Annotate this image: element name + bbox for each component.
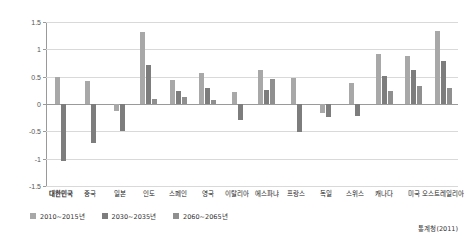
category-label: 일본	[114, 188, 126, 198]
bar	[264, 90, 269, 104]
bar	[211, 100, 216, 104]
category-label: 오스트레일리아	[422, 188, 464, 198]
category-axis-labels: 대한민국중국일본인도스페인영국이탈리아에스파냐프랑스독일스위스캐나다미국오스트레…	[46, 188, 458, 202]
y-tick-label: 0	[37, 101, 41, 108]
category-label: 스위스	[346, 188, 364, 198]
y-tick-label: 1.5	[31, 19, 41, 26]
legend-swatch-icon	[102, 213, 108, 219]
bar	[405, 56, 410, 104]
bar	[85, 81, 90, 104]
y-tick-mark	[43, 186, 46, 187]
y-tick-label: -0.5	[29, 128, 41, 135]
bar-group	[311, 22, 340, 186]
bar	[291, 78, 296, 104]
bar-group	[105, 22, 134, 186]
bar	[417, 86, 422, 104]
legend-item[interactable]: 2060~2065년	[173, 211, 228, 221]
bar	[146, 65, 151, 104]
bar	[238, 104, 243, 120]
category-label: 이탈리아	[225, 188, 249, 198]
bar-group	[46, 22, 75, 186]
category-label: 독일	[320, 188, 332, 198]
bar	[140, 32, 145, 104]
y-tick-label: 1	[37, 46, 41, 53]
category-label: 중국	[84, 188, 96, 198]
bar	[435, 31, 440, 104]
y-tick-label: -1	[35, 155, 41, 162]
bar	[232, 92, 237, 104]
source-note: 통계청(2011)	[418, 223, 458, 233]
bar	[91, 104, 96, 143]
bar	[349, 83, 354, 104]
legend-label: 2010~2015년	[40, 211, 85, 221]
bar	[411, 70, 416, 104]
bar	[441, 61, 446, 104]
bar	[320, 104, 325, 113]
plot-area: 1.510.50-0.5-1-1.5	[46, 22, 458, 186]
bar-group	[370, 22, 399, 186]
bar	[382, 76, 387, 104]
bar	[376, 54, 381, 104]
bar	[447, 88, 452, 104]
bar	[297, 104, 302, 132]
bar-group	[340, 22, 369, 186]
y-tick-label: -1.5	[29, 183, 41, 190]
chart-legend: 2010~2015년2030~2035년2060~2065년	[30, 211, 228, 221]
bar	[205, 88, 210, 104]
bar-group	[399, 22, 428, 186]
bar-group	[429, 22, 458, 186]
bar	[55, 77, 60, 104]
category-label: 에스파냐	[255, 188, 279, 198]
category-label: 캐나다	[375, 188, 393, 198]
bar-series-container	[46, 22, 458, 186]
bar	[120, 104, 125, 131]
category-label: 스페인	[169, 188, 187, 198]
bar-group	[252, 22, 281, 186]
y-tick-label: 0.5	[31, 73, 41, 80]
bar	[326, 104, 331, 117]
legend-item[interactable]: 2030~2035년	[102, 211, 157, 221]
category-label: 대한민국	[49, 188, 73, 198]
legend-label: 2060~2065년	[183, 211, 228, 221]
bar	[61, 104, 66, 161]
legend-swatch-icon	[173, 213, 179, 219]
category-label: 미국	[408, 188, 420, 198]
category-label: 영국	[202, 188, 214, 198]
bar	[258, 70, 263, 104]
bar	[199, 73, 204, 104]
bar-group	[223, 22, 252, 186]
legend-label: 2030~2035년	[112, 211, 157, 221]
bar	[114, 104, 119, 111]
bar	[152, 99, 157, 104]
bar-group	[75, 22, 104, 186]
bar	[170, 80, 175, 104]
bar	[355, 104, 360, 116]
bar	[182, 97, 187, 104]
bar-group	[193, 22, 222, 186]
gridline	[46, 186, 458, 187]
chart-figure: 1.510.50-0.5-1-1.5 대한민국중국일본인도스페인영국이탈리아에스…	[0, 0, 468, 239]
legend-swatch-icon	[30, 213, 36, 219]
bar	[388, 91, 393, 104]
category-label: 프랑스	[287, 188, 305, 198]
bar	[176, 91, 181, 104]
bar	[270, 79, 275, 104]
legend-item[interactable]: 2010~2015년	[30, 211, 85, 221]
bar-group	[281, 22, 310, 186]
category-label: 인도	[143, 188, 155, 198]
bar-group	[134, 22, 163, 186]
bar-group	[164, 22, 193, 186]
